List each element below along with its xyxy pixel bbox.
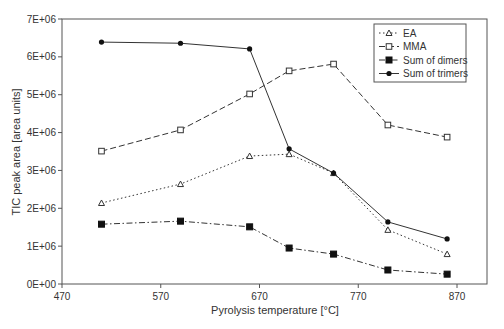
- data-point: [178, 181, 184, 187]
- x-tick-label: 470: [54, 291, 71, 302]
- x-tick-label: 870: [449, 291, 466, 302]
- data-point: [178, 41, 183, 46]
- x-tick-label: 770: [350, 291, 367, 302]
- data-point: [99, 200, 105, 206]
- y-axis-title: TIC peak area [area units]: [10, 88, 22, 215]
- data-point: [178, 218, 184, 224]
- legend-marker-icon: [386, 57, 392, 63]
- data-point: [385, 267, 391, 273]
- data-point: [247, 153, 253, 159]
- data-point: [444, 251, 450, 257]
- data-point: [99, 148, 105, 154]
- data-point: [385, 227, 391, 233]
- data-point: [99, 39, 104, 44]
- data-point: [287, 146, 292, 151]
- series-sum-of-dimers: [99, 218, 451, 277]
- data-point: [247, 224, 253, 230]
- y-tick-label: 2E+06: [27, 203, 57, 214]
- legend-marker-icon: [386, 71, 391, 76]
- legend-label: EA: [403, 28, 417, 39]
- series-line: [102, 221, 448, 274]
- x-tick-label: 570: [152, 291, 169, 302]
- legend-label: Sum of dimers: [403, 55, 467, 66]
- data-point: [286, 68, 292, 74]
- y-tick-label: 1E+06: [27, 241, 57, 252]
- y-tick-label: 5E+06: [27, 89, 57, 100]
- data-point: [247, 91, 253, 97]
- data-point: [331, 251, 337, 257]
- y-tick-label: 7E+06: [27, 14, 57, 25]
- x-tick-label: 670: [251, 291, 268, 302]
- y-tick-label: 4E+06: [27, 127, 57, 138]
- data-point: [331, 170, 336, 175]
- legend: EAMMASum of dimersSum of trimers: [374, 24, 468, 82]
- x-axis: 470570670770870: [54, 284, 466, 302]
- data-point: [286, 245, 292, 251]
- data-point: [444, 134, 450, 140]
- legend-marker-icon: [386, 44, 392, 50]
- y-tick-label: 3E+06: [27, 165, 57, 176]
- line-chart: 0E+001E+062E+063E+064E+065E+066E+067E+06…: [0, 0, 504, 329]
- data-point: [178, 127, 184, 133]
- y-tick-label: 6E+06: [27, 51, 57, 62]
- legend-label: Sum of trimers: [403, 68, 468, 79]
- data-point: [385, 122, 391, 128]
- data-point: [444, 271, 450, 277]
- y-axis: 0E+001E+062E+063E+064E+065E+066E+067E+06: [27, 14, 62, 290]
- chart-canvas: 0E+001E+062E+063E+064E+065E+066E+067E+06…: [0, 0, 504, 329]
- series-line: [102, 154, 448, 254]
- data-point: [331, 61, 337, 67]
- data-point: [99, 221, 105, 227]
- data-point: [385, 219, 390, 224]
- legend-label: MMA: [403, 41, 427, 52]
- data-point: [247, 46, 252, 51]
- y-tick-label: 0E+00: [27, 279, 57, 290]
- data-point: [445, 236, 450, 241]
- series-ea: [99, 151, 451, 256]
- x-axis-title: Pyrolysis temperature [°C]: [211, 304, 339, 316]
